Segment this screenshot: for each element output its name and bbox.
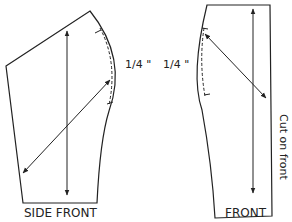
front-measurement: 1/4 " (163, 58, 189, 71)
front-dashed-seam (202, 28, 205, 96)
bias-arrow (205, 34, 266, 98)
side-front-measurement: 1/4 " (125, 58, 151, 71)
notch-top (95, 30, 101, 33)
side-front-dashed-seam (100, 28, 112, 105)
notch-top (202, 28, 208, 29)
side-front-outline (6, 11, 115, 203)
front-piece (197, 5, 272, 218)
pattern-diagram (0, 0, 292, 222)
side-front-label: SIDE FRONT (24, 206, 97, 220)
front-label: FRONT (225, 206, 266, 220)
side-front-piece (6, 11, 115, 203)
cut-on-front-note: Cut on front (277, 114, 290, 180)
